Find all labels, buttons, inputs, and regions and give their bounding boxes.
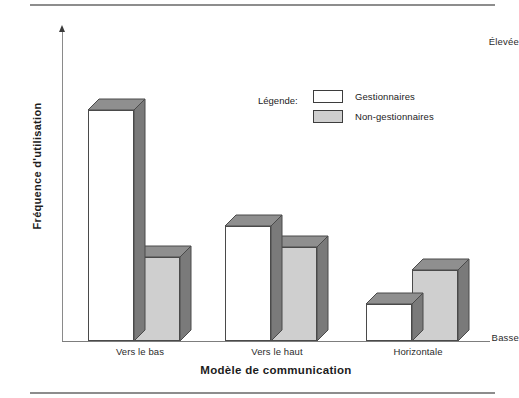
x-tick-label-vers-le-bas: Vers le bas [80,346,200,357]
x-tick-label-vers-le-haut: Vers le haut [217,346,337,357]
y-axis-label-high: Élevée [463,36,519,47]
bar-horizontale-gestionnaires [366,293,423,341]
top-divider-rule [30,4,495,6]
legend-label-gestionnaires: Gestionnaires [355,91,415,102]
bar-side-face [458,259,469,341]
bar-front-face [226,227,271,341]
y-axis-arrow-icon [59,25,65,32]
bar-vers-le-bas-gestionnaires [88,99,145,341]
y-axis-label-low: Basse [463,332,519,343]
legend-entry-non-gestionnaires: Non-gestionnaires [313,110,434,123]
legend-swatch-gestionnaires [313,90,343,103]
bar-vers-le-haut-gestionnaires [225,215,282,341]
y-axis-line [62,30,63,341]
legend-label-non-gestionnaires: Non-gestionnaires [355,111,434,122]
bar-side-face [134,99,145,341]
x-axis-title: Modèle de communication [62,364,490,376]
bar-side-face [271,215,282,341]
bottom-divider-rule [30,392,495,394]
bar-side-face [317,236,328,341]
bar-front-face [367,305,412,341]
y-axis-title: Fréquence d'utilisation [31,66,43,266]
x-tick-label-horizontale: Horizontale [358,346,478,357]
chart-figure: Élevée Basse Fréquence d'utilisation Ver… [0,0,519,398]
bar-front-face [89,111,134,341]
legend-entry-gestionnaires: Gestionnaires [313,90,415,103]
bar-side-face [180,246,191,341]
x-axis-line [62,341,490,342]
legend-swatch-non-gestionnaires [313,110,343,123]
legend-title: Légende: [258,95,298,106]
